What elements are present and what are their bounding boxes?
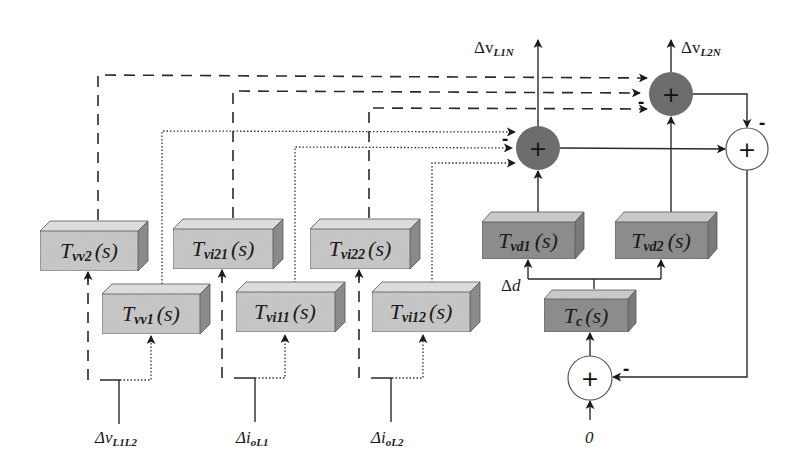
input-stems — [100, 378, 392, 424]
block-tvi21: Tvi21(s) — [173, 219, 283, 269]
block-tc: Tc(s) — [544, 290, 636, 332]
output-label-vl1n: ΔvL1N — [474, 38, 515, 58]
block-diagram: + - + - + - + - Tvv2(s) Tvi21(s) — [0, 0, 805, 471]
block-tvi22: Tvi22(s) — [310, 219, 420, 269]
iol2-to-tvi12-line — [392, 335, 423, 378]
input-label-iol1: ΔioL1 — [235, 428, 268, 448]
output-label-vl2n: ΔvL2N — [681, 38, 722, 58]
block-tvv2: Tvv2(s) — [40, 221, 148, 271]
minus-sign: - — [623, 359, 630, 378]
input-label-iol2: ΔioL2 — [370, 428, 404, 448]
block-tvv1: Tvv1(s) — [102, 284, 210, 334]
plus-sign: + — [581, 366, 599, 391]
block-tvd1: Tvd1(s) — [482, 212, 584, 259]
minus-sign: - — [502, 129, 509, 148]
tc-split-line — [528, 279, 661, 289]
minus-sign: - — [638, 92, 645, 111]
summer-sum4: + - — [568, 356, 629, 400]
input-label-vl1l2: ΔvL1L2 — [94, 428, 137, 448]
tvi21-to-sum2-line — [233, 91, 640, 218]
input-label-zero: 0 — [585, 428, 594, 447]
sum1-to-sum3-line — [560, 148, 725, 149]
plus-sign: + — [738, 137, 756, 162]
block-tvi12: Tvi12(s) — [372, 282, 480, 332]
plus-sign: + — [529, 136, 547, 161]
vl1l2-to-tvv1-line — [120, 336, 151, 380]
sum2-to-sum3-line — [693, 94, 747, 127]
iol1-to-tvi11-line — [255, 335, 285, 378]
block-tvi11: Tvi11(s) — [236, 282, 345, 332]
minus-sign: - — [759, 113, 766, 132]
duty-label: Δd — [501, 276, 521, 295]
plus-sign: + — [662, 82, 680, 107]
svg-text:Tc(s): Tc(s) — [564, 303, 609, 329]
sum3-to-sum4-line — [613, 170, 747, 377]
block-tvd2: Tvd2(s) — [615, 212, 717, 259]
